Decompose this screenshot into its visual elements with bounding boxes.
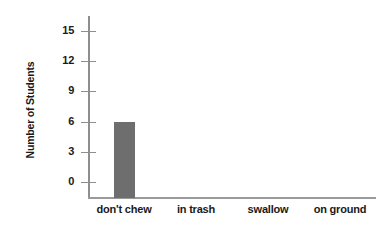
x-category-label-1: in trash bbox=[160, 203, 232, 215]
plot-area: 15 12 9 6 3 0 don't chewin trashswallowo… bbox=[0, 0, 391, 229]
x-category-label-2: swallow bbox=[232, 203, 304, 215]
y-tick-label-0: 0 bbox=[34, 175, 74, 187]
y-tick-label-12: 12 bbox=[34, 54, 74, 66]
y-tick-mark-6 bbox=[81, 122, 96, 123]
x-category-label-3: on ground bbox=[304, 203, 376, 215]
y-tick-label-9: 9 bbox=[34, 84, 74, 96]
y-tick-mark-15 bbox=[81, 31, 96, 32]
y-tick-label-15: 15 bbox=[34, 24, 74, 36]
x-category-label-0: don't chew bbox=[88, 203, 160, 215]
y-tick-mark-12 bbox=[81, 61, 96, 62]
y-tick-mark-0 bbox=[81, 182, 96, 183]
y-tick-label-3: 3 bbox=[34, 145, 74, 157]
bar-0 bbox=[114, 122, 135, 198]
y-tick-label-6: 6 bbox=[34, 115, 74, 127]
bar-chart: Number of Students 15 12 9 6 3 0 don't c… bbox=[0, 0, 391, 229]
y-tick-mark-3 bbox=[81, 152, 96, 153]
y-axis-line bbox=[88, 16, 90, 198]
y-tick-mark-9 bbox=[81, 91, 96, 92]
